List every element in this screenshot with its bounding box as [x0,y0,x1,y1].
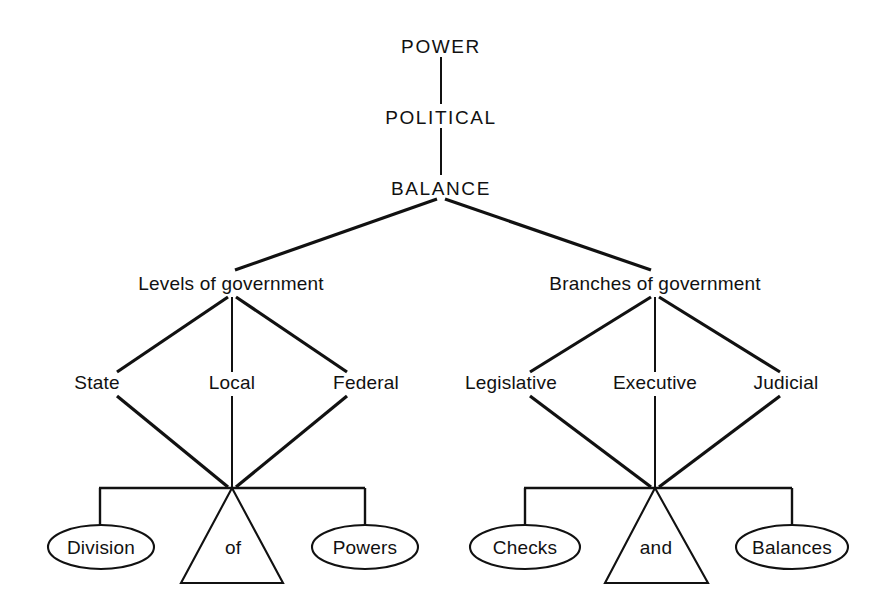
label-powers: Powers [333,537,398,558]
node-branches-of-government: Branches of government [549,273,761,294]
scale-checks-and-balances [470,488,848,583]
node-judicial: Judicial [754,372,819,393]
political-balance-diagram: POWER POLITICAL BALANCE Levels of govern… [0,0,882,616]
node-political: POLITICAL [385,107,497,128]
label-checks: Checks [493,537,558,558]
fulcrum-triangle-and [605,488,708,583]
label-and: and [640,537,672,558]
node-local: Local [209,372,255,393]
scale-division-of-powers [48,488,418,583]
node-balance: BALANCE [391,178,491,199]
diagram-canvas: POWER POLITICAL BALANCE Levels of govern… [0,0,882,616]
node-power: POWER [401,36,481,57]
edge-levels-state [117,297,228,372]
node-executive: Executive [613,372,697,393]
edge-branches-judicial [659,297,780,372]
node-federal: Federal [333,372,399,393]
edge-federal-fulcrum [236,396,347,487]
edge-legislative-fulcrum [530,396,651,487]
node-levels-of-government: Levels of government [138,273,324,294]
edge-balance-branches [445,199,651,270]
fulcrum-triangle-of [181,488,283,583]
node-state: State [74,372,119,393]
balance-split-edges [235,199,651,270]
label-of: of [225,537,242,558]
label-balances: Balances [752,537,832,558]
edge-state-fulcrum [117,396,228,487]
edge-levels-federal [236,297,347,372]
node-legislative: Legislative [465,372,557,393]
edge-branches-legislative [530,297,651,372]
label-division: Division [67,537,135,558]
edge-judicial-fulcrum [659,396,780,487]
edge-balance-levels [235,199,437,270]
